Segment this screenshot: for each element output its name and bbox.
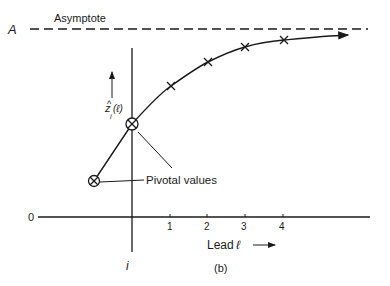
pivotal-point-marker bbox=[126, 118, 138, 130]
tick-label-2: 2 bbox=[204, 221, 210, 232]
x-axis-label-text: Lead bbox=[207, 238, 234, 252]
tick-label-1: 1 bbox=[167, 221, 173, 232]
x-axis-label-var: ℓ bbox=[236, 238, 241, 252]
forecast-point-markers bbox=[167, 36, 288, 90]
y-axis-label-arg: (ℓ) bbox=[113, 103, 123, 114]
origin-time-label: i bbox=[126, 259, 129, 273]
y-axis-label-sub: i bbox=[110, 113, 112, 120]
pivot-leader-line bbox=[138, 132, 172, 168]
asymptote-label: Asymptote bbox=[54, 12, 106, 24]
pivot-label: Pivotal values bbox=[146, 174, 217, 186]
asymptote-symbol: A bbox=[7, 22, 17, 37]
tick-label-3: 3 bbox=[241, 221, 247, 232]
pivotal-point-marker bbox=[89, 176, 100, 187]
origin-label: 0 bbox=[28, 211, 34, 223]
forecast-diagram: A Asymptote i 0 1 2 3 4 Lead ℓ ^ z i (ℓ) bbox=[0, 0, 390, 286]
figure-caption: (b) bbox=[214, 262, 227, 274]
pivot-leader-line bbox=[100, 180, 144, 182]
tick-label-4: 4 bbox=[279, 221, 285, 232]
